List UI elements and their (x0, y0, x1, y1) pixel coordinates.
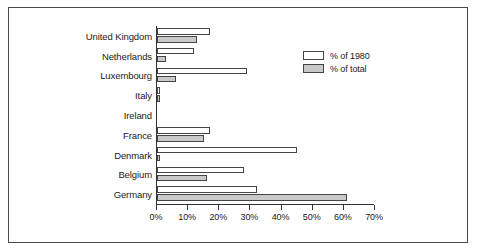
category-label: United Kingdom (86, 30, 152, 41)
category-label: Belgium (118, 169, 152, 180)
x-tick-label: 0% (150, 212, 163, 222)
bar-percent-of-1980 (157, 127, 210, 134)
bar-percent-of-1980 (157, 147, 297, 154)
bar-row: Denmark (156, 145, 374, 165)
x-tick (312, 205, 313, 210)
legend-item: % of total (303, 62, 370, 75)
x-tick (374, 205, 375, 210)
category-label: Italy (135, 90, 152, 101)
bar-row: United Kingdom (156, 26, 374, 46)
bar-percent-of-total (157, 56, 166, 63)
category-label: France (123, 129, 152, 140)
legend-label-percent-of-total: % of total (330, 64, 367, 74)
category-label: Netherlands (102, 50, 152, 61)
x-tick (187, 205, 188, 210)
x-tick (156, 205, 157, 210)
category-label: Ireland (124, 109, 152, 120)
bar-row: Belgium (156, 164, 374, 184)
x-tick-label: 30% (241, 212, 259, 222)
bar-percent-of-1980 (157, 48, 194, 55)
bar-percent-of-total (157, 194, 347, 201)
bar-row: Ireland (156, 105, 374, 125)
x-tick-label: 40% (272, 212, 290, 222)
x-tick (218, 205, 219, 210)
x-tick (343, 205, 344, 210)
x-tick-label: 70% (365, 212, 383, 222)
chart-figure: 0%10%20%30%40%50%60%70% United KingdomNe… (8, 7, 468, 243)
category-axis-line (156, 204, 374, 205)
bar-percent-of-total (157, 36, 197, 43)
bar-percent-of-1980 (157, 186, 257, 193)
bar-percent-of-1980 (157, 68, 247, 75)
x-tick-label: 20% (209, 212, 227, 222)
bar-row: Germany (156, 184, 374, 204)
category-label: Luxembourg (100, 70, 152, 81)
bar-row: France (156, 125, 374, 145)
bar-percent-of-1980 (157, 87, 160, 94)
bar-row: Italy (156, 85, 374, 105)
category-label: Denmark (114, 149, 152, 160)
bar-percent-of-total (157, 76, 176, 83)
bar-percent-of-total (157, 95, 160, 102)
x-tick-label: 60% (334, 212, 352, 222)
legend-item: % of 1980 (303, 49, 370, 62)
x-tick (249, 205, 250, 210)
bar-percent-of-1980 (157, 167, 244, 174)
bar-percent-of-total (157, 175, 207, 182)
x-tick (281, 205, 282, 210)
legend-label-percent-of-1980: % of 1980 (330, 51, 370, 61)
x-tick-label: 10% (178, 212, 196, 222)
legend-swatch-percent-of-1980 (303, 51, 324, 60)
chart-legend: % of 1980 % of total (303, 49, 370, 75)
category-label: Germany (114, 189, 152, 200)
bar-percent-of-total (157, 135, 204, 142)
bar-percent-of-1980 (157, 28, 210, 35)
x-tick-label: 50% (303, 212, 321, 222)
bar-percent-of-total (157, 155, 160, 162)
legend-swatch-percent-of-total (303, 64, 324, 73)
